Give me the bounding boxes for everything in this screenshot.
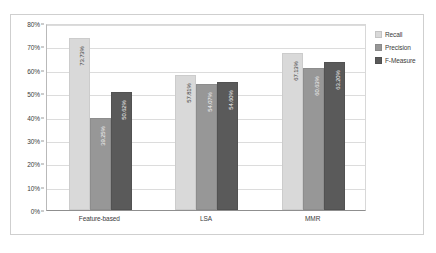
legend-label: Precision <box>385 44 411 51</box>
bar[interactable]: 57.81% <box>175 75 196 210</box>
legend-item[interactable]: F-Measure <box>375 54 423 66</box>
bar[interactable]: 50.62% <box>111 92 132 210</box>
bar-value-label: 60.63% <box>314 77 320 96</box>
chart-frame: 0%10%20%30%40%50%60%70%80% 73.73%39.25%5… <box>10 14 424 235</box>
x-axis-category-label: MMR <box>305 215 320 222</box>
bar[interactable]: 63.20% <box>324 62 345 210</box>
legend-swatch-icon <box>375 44 382 51</box>
bar[interactable]: 39.25% <box>90 118 111 210</box>
y-axis-tick-label: 10% <box>27 184 40 191</box>
legend-label: F-Measure <box>385 57 416 64</box>
y-axis-tick-label: 60% <box>27 67 40 74</box>
bar-value-label: 54.07% <box>207 92 213 111</box>
y-axis-tick-mark <box>41 24 44 25</box>
bar-value-label: 57.81% <box>186 83 192 102</box>
bar-group: 73.73%39.25%50.62% <box>47 25 154 210</box>
y-axis-tick-label: 40% <box>27 114 40 121</box>
y-axis-tick-mark <box>41 117 44 118</box>
y-axis-tick-label: 70% <box>27 44 40 51</box>
chart-legend: RecallPrecisionF-Measure <box>375 28 423 67</box>
x-axis-category-label: Feature-based <box>79 215 120 222</box>
y-axis-tick-mark <box>41 47 44 48</box>
y-axis-tick-mark <box>41 140 44 141</box>
y-axis-tick-label: 20% <box>27 161 40 168</box>
x-axis: Feature-basedLSAMMR <box>46 213 366 229</box>
y-axis-tick-mark <box>41 164 44 165</box>
legend-swatch-icon <box>375 57 382 64</box>
y-axis-tick-label: 30% <box>27 137 40 144</box>
y-axis-tick-label: 0% <box>31 208 40 215</box>
bar[interactable]: 67.13% <box>282 53 303 210</box>
bar-value-label: 73.73% <box>79 46 85 65</box>
bar-value-label: 63.20% <box>335 71 341 90</box>
bar[interactable]: 54.60% <box>217 82 238 210</box>
y-axis-tick-label: 50% <box>27 91 40 98</box>
y-axis-tick-mark <box>41 211 44 212</box>
y-axis-tick-mark <box>41 187 44 188</box>
legend-swatch-icon <box>375 31 382 38</box>
legend-item[interactable]: Recall <box>375 28 423 40</box>
plot-area: 73.73%39.25%50.62%57.81%54.07%54.60%67.1… <box>46 24 366 211</box>
y-axis: 0%10%20%30%40%50%60%70%80% <box>11 24 44 211</box>
legend-item[interactable]: Precision <box>375 41 423 53</box>
bar-group: 67.13%60.63%63.20% <box>260 25 367 210</box>
y-axis-tick-mark <box>41 94 44 95</box>
y-axis-tick-mark <box>41 70 44 71</box>
bar-value-label: 39.25% <box>100 127 106 146</box>
bar-value-label: 54.60% <box>228 91 234 110</box>
bar-group: 57.81%54.07%54.60% <box>154 25 261 210</box>
bar[interactable]: 60.63% <box>303 68 324 210</box>
bar-value-label: 67.13% <box>293 61 299 80</box>
bar[interactable]: 73.73% <box>69 38 90 210</box>
x-axis-category-label: LSA <box>200 215 212 222</box>
bar[interactable]: 54.07% <box>196 84 217 210</box>
bar-value-label: 50.62% <box>121 100 127 119</box>
y-axis-tick-label: 80% <box>27 21 40 28</box>
legend-label: Recall <box>385 31 402 38</box>
